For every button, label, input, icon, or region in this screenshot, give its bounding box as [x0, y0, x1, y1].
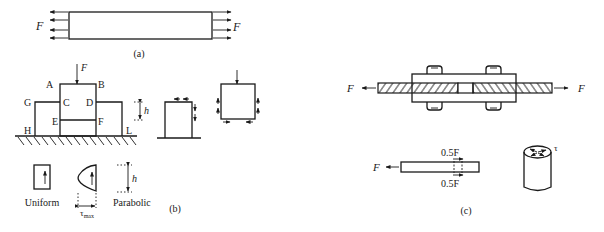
tau-label: τ — [554, 143, 558, 153]
caption-a: (a) — [133, 48, 144, 60]
point-h-label: H — [24, 125, 31, 136]
point-c-label: C — [63, 97, 70, 108]
caption-b: (b) — [169, 203, 181, 215]
force-label-right-c: F — [577, 82, 585, 94]
panel-b: F A B C D E F G H L — [15, 62, 258, 219]
uniform-label: Uniform — [25, 197, 60, 208]
right-main-plate — [473, 83, 552, 93]
plate-gap — [458, 83, 473, 93]
ground-hatching — [18, 137, 136, 145]
point-e-label: E — [52, 116, 58, 127]
force-label-left-c: F — [346, 82, 354, 94]
point-l-label: L — [126, 125, 132, 136]
height-label: h — [144, 105, 149, 116]
right-force-arrows — [213, 12, 231, 38]
profile-height-label: h — [132, 173, 137, 184]
center-block — [60, 84, 96, 136]
profile-height-dimension — [117, 165, 132, 192]
free-body-strip — [386, 159, 479, 175]
point-f-label: F — [98, 116, 104, 127]
point-b-label: B — [98, 79, 105, 90]
shear-element-ground — [157, 99, 201, 138]
tension-bar — [69, 12, 212, 39]
parabolic-profile — [78, 165, 96, 208]
caption-c: (c) — [460, 205, 471, 217]
force-label-right: F — [232, 20, 241, 34]
tau-max-label: τmax — [80, 208, 94, 219]
uniform-profile — [34, 165, 50, 189]
free-body-force-label: F — [372, 161, 380, 173]
panel-a: F F (a) — [35, 12, 241, 60]
parabolic-label: Parabolic — [113, 197, 151, 208]
point-g-label: G — [24, 97, 31, 108]
force-label-left: F — [35, 19, 44, 33]
left-force-arrows — [50, 12, 68, 38]
shear-element-loaded — [218, 70, 258, 122]
point-a-label: A — [46, 79, 54, 90]
bolt-heads-top — [427, 66, 501, 74]
height-dimension — [134, 102, 144, 120]
panel-c: F F F 0.5F 0.5F τ (c) — [346, 66, 585, 217]
bolt-cylinder — [524, 146, 551, 191]
bolt-heads-bottom — [427, 102, 501, 110]
half-force-top-label: 0.5F — [441, 147, 460, 158]
half-force-bottom-label: 0.5F — [441, 178, 460, 189]
load-label: F — [80, 62, 88, 73]
shear-stress-diagram: F F (a) F A B C D E F G — [0, 0, 604, 232]
point-d-label: D — [86, 97, 93, 108]
left-main-plate — [378, 83, 458, 93]
